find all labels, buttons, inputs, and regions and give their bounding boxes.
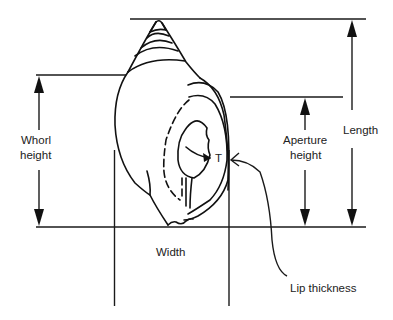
arrowhead-up-icon bbox=[347, 20, 357, 37]
aperture-height-label-2: height bbox=[290, 149, 322, 161]
arrowhead-up-icon bbox=[300, 98, 310, 115]
length-arrow bbox=[347, 20, 357, 226]
arrowhead-down-icon bbox=[347, 209, 357, 226]
shell-measurement-diagram: Whorl height Aperture height Length Widt… bbox=[0, 0, 393, 320]
lip-thickness-pointer bbox=[231, 153, 287, 276]
lip-marker-t: T bbox=[215, 152, 222, 164]
reference-lines bbox=[36, 19, 366, 306]
shell-drawing bbox=[115, 21, 229, 225]
arrowhead-down-icon bbox=[300, 209, 310, 226]
whorl-height-label-2: height bbox=[20, 149, 52, 161]
arrowhead-up-icon bbox=[34, 76, 44, 93]
lip-thickness-label: Lip thickness bbox=[290, 282, 357, 294]
length-label: Length bbox=[343, 124, 378, 136]
aperture-height-arrow bbox=[300, 98, 310, 226]
aperture-height-label: Aperture bbox=[283, 134, 327, 146]
whorl-height-label: Whorl bbox=[21, 134, 51, 146]
arrowhead-down-icon bbox=[34, 209, 44, 226]
width-label: Width bbox=[156, 246, 185, 258]
